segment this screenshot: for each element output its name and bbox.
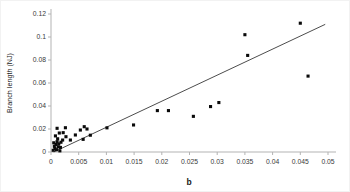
- y-tick-label: 0.04: [33, 102, 46, 109]
- x-tick-label: 0.03: [211, 158, 224, 165]
- x-axis-title: b: [186, 177, 191, 187]
- y-tick-label: 0.02: [33, 125, 46, 132]
- data-point: [56, 137, 59, 140]
- data-point: [64, 126, 67, 129]
- data-point: [69, 138, 72, 141]
- data-point: [55, 148, 58, 151]
- trend-line: [54, 24, 325, 152]
- y-tick-label: 0.06: [33, 79, 46, 86]
- data-point: [62, 131, 65, 134]
- x-tick-label: 0: [49, 158, 53, 165]
- data-point: [105, 126, 108, 129]
- scatter-plot-figure: 00.0050.010.0150.020.0250.030.0350.040.0…: [0, 0, 350, 192]
- data-point: [59, 146, 62, 149]
- x-tick-label: 0.04: [266, 158, 279, 165]
- data-point: [74, 133, 77, 136]
- data-point: [58, 149, 61, 152]
- data-point: [209, 105, 212, 108]
- data-point: [307, 75, 310, 78]
- data-point: [246, 54, 249, 57]
- data-point: [243, 33, 246, 36]
- data-point: [167, 109, 170, 112]
- data-point: [52, 141, 55, 144]
- y-tick-label: 0.12: [33, 10, 46, 17]
- data-point: [192, 115, 195, 118]
- data-point: [132, 123, 135, 126]
- x-tick-label: 0.05: [321, 158, 334, 165]
- x-tick-label: 0.02: [155, 158, 168, 165]
- data-point: [58, 131, 61, 134]
- y-tick-label: 0: [42, 148, 46, 155]
- data-point: [56, 140, 59, 143]
- x-tick-label: 0.005: [70, 158, 87, 165]
- data-point: [61, 138, 64, 141]
- data-point: [217, 101, 220, 104]
- data-point: [64, 135, 67, 138]
- x-tick-label: 0.01: [100, 158, 113, 165]
- y-tick-label: 0.1: [37, 33, 47, 40]
- x-tick-label: 0.045: [292, 158, 309, 165]
- data-point: [54, 134, 57, 137]
- data-point: [83, 125, 86, 128]
- y-tick-label: 0.08: [33, 56, 46, 63]
- data-point: [82, 138, 85, 141]
- data-point: [79, 128, 82, 131]
- x-tick-label: 0.015: [126, 158, 143, 165]
- data-point: [89, 134, 92, 137]
- chart-plot-area: 00.0050.010.0150.020.0250.030.0350.040.0…: [33, 9, 336, 165]
- y-axis-title: Branch length (NJ): [5, 53, 14, 113]
- data-point: [56, 127, 59, 130]
- data-point: [156, 109, 159, 112]
- chart-canvas: 00.0050.010.0150.020.0250.030.0350.040.0…: [1, 1, 350, 192]
- x-tick-label: 0.025: [181, 158, 198, 165]
- x-tick-label: 0.035: [236, 158, 253, 165]
- data-point: [85, 127, 88, 130]
- data-point: [299, 22, 302, 25]
